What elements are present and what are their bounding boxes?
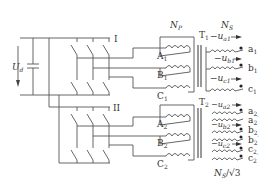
- arrow-right-icon: [231, 77, 242, 81]
- arrow-right-icon: [234, 57, 242, 61]
- terminal-B1-label: B1: [157, 70, 167, 81]
- inverter-II: II: [49, 103, 160, 163]
- switch-icon: [103, 107, 109, 148]
- switch-icon: [71, 82, 77, 95]
- switch-icon: [87, 150, 93, 163]
- arrow-right-icon: [231, 35, 242, 39]
- primary-turns-label: NP: [169, 20, 183, 31]
- terminal-B2-label: B2: [157, 138, 168, 149]
- switch-icon: [71, 150, 77, 163]
- transformer-core-icon: [198, 45, 201, 87]
- voltage-ub1-label: −ub1: [214, 53, 235, 64]
- secondary-turns-label: NS: [220, 20, 233, 31]
- terminal-a1-label: a1: [248, 44, 257, 55]
- dc-voltage-label: Ud: [12, 62, 24, 73]
- terminal-A1-label: A1: [156, 51, 167, 62]
- capacitor-icon: [27, 64, 39, 68]
- inverter-transformer-schematic: Ud I: [0, 0, 270, 190]
- arrow-right-icon: [232, 142, 242, 146]
- winding-C2-icon: [160, 154, 190, 157]
- voltage-ua1-label: −ua1: [210, 31, 231, 42]
- transformer-T1-secondary: NS T1 −ua1 −ub1 −uc1 a1 b1 c1: [199, 20, 258, 95]
- inverter-I-label: I: [114, 34, 118, 44]
- arrow-right-icon: [232, 123, 242, 127]
- inverter-I: I: [59, 34, 160, 95]
- inverter-II-label: II: [113, 103, 121, 113]
- switch-icon: [103, 38, 109, 80]
- secondary-turns-T2-label: NS/√3: [213, 168, 241, 179]
- terminal-C1-label: C1: [157, 91, 168, 102]
- transformer-T1-label: T1: [199, 30, 209, 41]
- terminal-c1-label: c1: [248, 84, 257, 95]
- switch-icon: [87, 38, 93, 80]
- switch-icon: [71, 38, 77, 80]
- voltage-uc1-label: −uc1: [210, 73, 231, 84]
- switch-icon: [103, 82, 109, 95]
- terminal-A2-label: A2: [156, 119, 168, 130]
- switch-icon: [87, 82, 93, 95]
- winding-b1-icon: [206, 67, 243, 69]
- voltage-ua2-label: −ua2: [211, 100, 230, 110]
- transformer-T2-secondary: T2 −ua2 −ub2 −uc2 a2 a2′: [199, 97, 260, 179]
- winding-c2-prime-icon: [212, 155, 243, 161]
- switch-icon: [103, 150, 109, 163]
- arrow-right-icon: [232, 103, 242, 107]
- winding-a1-icon: [206, 50, 243, 52]
- switch-icon: [71, 107, 77, 148]
- winding-C1-icon: [160, 86, 190, 89]
- winding-c1-icon: [206, 89, 243, 91]
- switch-icon: [87, 107, 93, 148]
- transformer-core-icon: [198, 108, 201, 158]
- dc-link: Ud: [12, 38, 110, 163]
- terminal-C2-label: C2: [157, 159, 168, 170]
- transformer-T2-primary: A2 B2 C2: [156, 105, 194, 170]
- transformer-T2-label: T2: [199, 97, 209, 108]
- terminal-b1-label: b1: [248, 63, 258, 74]
- transformer-T1-primary: NP A1 B1 C1: [156, 20, 194, 102]
- voltage-ub2-label: −ub2: [211, 120, 231, 130]
